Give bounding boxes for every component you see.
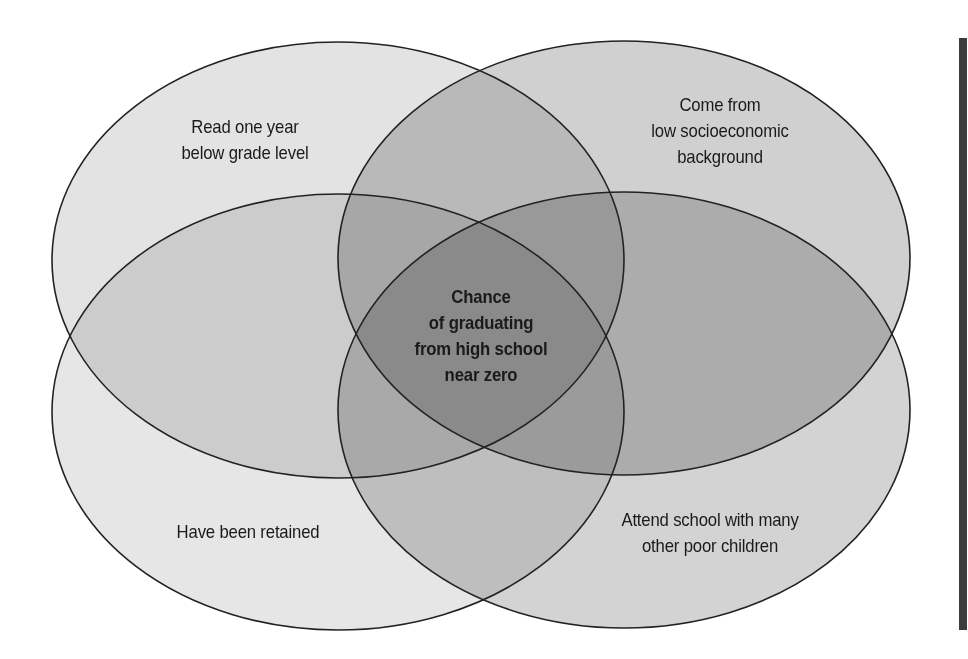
side-bar: [959, 38, 967, 630]
label-line: background: [614, 144, 825, 170]
label-line: Chance: [393, 284, 569, 310]
label-line: other poor children: [587, 533, 833, 559]
label-line: near zero: [393, 362, 569, 388]
label-line: low socioeconomic: [614, 118, 825, 144]
label-line: Attend school with many: [587, 507, 833, 533]
label-reading: Read one year below grade level: [144, 114, 346, 166]
label-line: Read one year: [144, 114, 346, 140]
label-line: from high school: [393, 336, 569, 362]
label-poor-school: Attend school with many other poor child…: [587, 507, 833, 559]
label-line: of graduating: [393, 310, 569, 336]
label-socioeconomic: Come from low socioeconomic background: [614, 92, 825, 170]
label-line: Come from: [614, 92, 825, 118]
label-center-outcome: Chance of graduating from high school ne…: [393, 284, 569, 388]
label-line: Have been retained: [134, 519, 363, 545]
label-line: below grade level: [144, 140, 346, 166]
label-retained: Have been retained: [134, 519, 363, 545]
